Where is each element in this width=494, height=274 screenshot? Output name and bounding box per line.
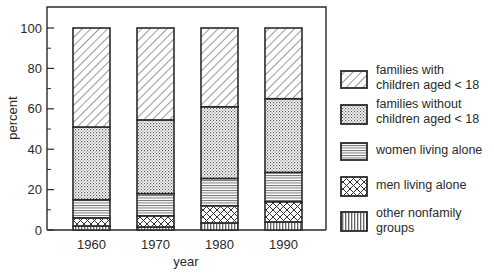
bar-1980 [201, 28, 238, 230]
legend-swatch [341, 71, 367, 88]
bar-1960 [73, 28, 110, 230]
bar-segment [73, 200, 110, 218]
legend-swatch [341, 177, 367, 196]
y-tick-label: 80 [28, 61, 42, 76]
y-tick-label: 40 [28, 142, 42, 157]
bar-segment [201, 206, 238, 223]
bar-segment [265, 99, 302, 173]
bar-segment [201, 28, 238, 107]
legend-label: families without children aged < 18 [376, 97, 479, 127]
bar-segment [137, 120, 174, 194]
bar-segment [265, 28, 302, 99]
bar-segment [201, 107, 238, 179]
legend-label: men living alone [376, 178, 466, 193]
legend-swatch [341, 143, 367, 160]
bar-segment [201, 178, 238, 205]
bar-segment [201, 223, 238, 230]
legend-label: families with children aged < 18 [376, 63, 479, 93]
y-tick-label: 60 [28, 101, 42, 116]
y-axis-title: percent [5, 96, 20, 140]
bar-segment [265, 172, 302, 201]
x-tick-label: 1980 [205, 237, 234, 252]
bar-segment [137, 216, 174, 227]
bar-segment [265, 222, 302, 230]
bar-segment [73, 218, 110, 226]
bar-segment [265, 202, 302, 222]
x-tick-label: 1960 [77, 237, 106, 252]
x-axis-labels: 1960197019801990 [77, 237, 298, 252]
bar-segment [73, 28, 110, 127]
bar-1990 [265, 28, 302, 230]
y-tick-label: 20 [28, 182, 42, 197]
bars [73, 28, 302, 230]
bar-segment [73, 127, 110, 200]
x-axis-title: year [173, 254, 199, 269]
bar-segment [137, 194, 174, 216]
y-axis: 020406080100 [20, 21, 54, 238]
y-tick-label: 100 [20, 21, 42, 36]
y-tick-label: 0 [35, 223, 42, 238]
legend-label: other nonfamily groups [376, 206, 461, 236]
bar-segment [137, 28, 174, 120]
x-tick-label: 1970 [141, 237, 170, 252]
legend-swatch [341, 105, 367, 124]
legend-swatch [341, 212, 367, 231]
legend [341, 71, 367, 231]
legend-label: women living alone [376, 143, 482, 158]
bar-1970 [137, 28, 174, 230]
x-tick-label: 1990 [269, 237, 298, 252]
